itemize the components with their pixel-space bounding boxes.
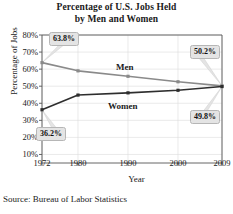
callout-men-1972: 63.8% <box>49 32 79 46</box>
series-label-women: Women <box>108 101 138 111</box>
x-tick-label: 1972 <box>22 158 62 168</box>
callout-women-2009: 49.8% <box>190 110 220 124</box>
x-tick-label: 1980 <box>58 158 98 168</box>
series-label-men: Men <box>116 62 134 72</box>
callout-men-2009: 50.2% <box>190 45 220 59</box>
x-axis-label: Year <box>40 174 233 184</box>
callout-women-1972: 36.2% <box>36 127 66 141</box>
source-note: Source: Bureau of Labor Statistics <box>3 194 127 204</box>
x-tick-label: 2009 <box>202 158 233 168</box>
x-tick-label: 1990 <box>108 158 148 168</box>
x-tick-label: 2000 <box>158 158 198 168</box>
chart-figure: Percentage of U.S. Jobs Held by Men and … <box>0 0 233 214</box>
